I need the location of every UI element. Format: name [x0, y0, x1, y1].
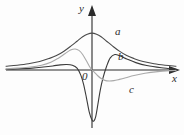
y-axis-arrowhead: [88, 5, 96, 16]
curve-label-a: a: [115, 26, 121, 37]
curves-group: [6, 33, 176, 121]
x-axis-label: x: [172, 73, 177, 84]
curve-c: [6, 49, 176, 81]
figure-container: y x 0 a b c: [0, 0, 184, 135]
curve-label-b: b: [118, 51, 124, 62]
origin-label: 0: [82, 71, 88, 82]
curve-b: [6, 54, 176, 121]
curve-label-c: c: [129, 84, 134, 95]
plot-canvas: [0, 0, 184, 135]
curve-a: [6, 33, 176, 66]
y-axis-label: y: [79, 3, 84, 14]
